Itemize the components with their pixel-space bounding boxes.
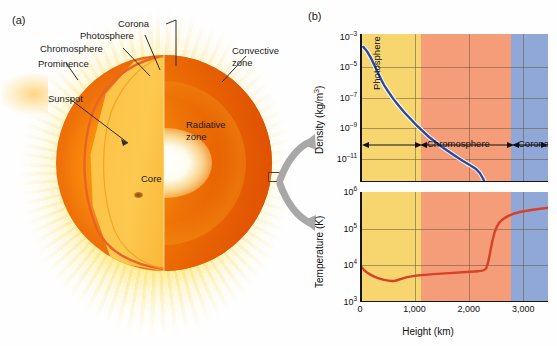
label-photosphere: Photosphere — [80, 30, 134, 41]
ytick-temp-2: 104 — [343, 260, 357, 270]
zone-label-corona: Corona — [518, 138, 548, 149]
temperature-plot-area — [360, 192, 548, 302]
density-plot: Photosphere Chromosphere Corona 10–3 10–… — [360, 34, 548, 182]
label-core: Core — [141, 173, 162, 184]
ytick-density-0: 10–3 — [340, 32, 357, 42]
ytick-density-4: 10–11 — [337, 154, 357, 164]
density-axis-title: Density (kg/m3) — [314, 86, 325, 154]
zone-annotation-arrows — [360, 34, 548, 182]
panel-b-letter: (b) — [308, 10, 321, 22]
ytick-density-2: 10–7 — [340, 93, 357, 103]
panel-a-sun-illustration: (a) Corona Photosphere — [0, 0, 300, 346]
panel-b-profiles: (b) — [300, 0, 557, 346]
detail-callout-box — [268, 172, 283, 182]
temperature-x-axis — [360, 301, 548, 303]
sun-sphere — [56, 55, 272, 271]
ytick-density-3: 10–9 — [340, 123, 357, 133]
label-prominence: Prominence — [38, 58, 89, 69]
ytick-temp-3: 103 — [343, 297, 357, 307]
prominence-feature — [2, 74, 48, 114]
label-radiative-zone-line2: zone — [186, 131, 207, 142]
ytick-temp-1: 105 — [343, 224, 357, 234]
temperature-curve — [360, 192, 548, 302]
label-sunspot: Sunspot — [48, 93, 83, 104]
sunspot-feature — [134, 192, 143, 198]
zone-label-photosphere: Photosphere — [371, 36, 382, 90]
solar-structure-figure: (a) Corona Photosphere — [0, 0, 557, 346]
label-corona: Corona — [118, 18, 149, 29]
label-convective-zone-line2: zone — [232, 57, 253, 68]
xtick-1000: 1,000 — [403, 304, 426, 314]
density-plot-area: Photosphere Chromosphere Corona — [360, 34, 548, 182]
height-axis-title: Height (km) — [402, 326, 454, 337]
temperature-axis-title: Temperature (K) — [314, 216, 325, 288]
label-radiative-zone-line1: Radiative — [186, 119, 226, 130]
label-chromosphere: Chromosphere — [40, 43, 103, 54]
ytick-density-1: 10–5 — [340, 62, 357, 72]
zone-label-chromosphere: Chromosphere — [427, 138, 490, 149]
label-convective-zone-line1: Convective — [232, 45, 279, 56]
density-y-axis — [360, 34, 362, 182]
density-x-axis — [360, 181, 548, 183]
xtick-0: 0 — [357, 304, 362, 314]
xtick-3000: 3,000 — [512, 304, 535, 314]
temperature-plot: 106 105 104 103 0 1,000 2,000 3,000 — [360, 192, 548, 302]
chromosphere-boundary-line — [56, 55, 272, 271]
temperature-y-axis — [360, 192, 362, 302]
xtick-2000: 2,000 — [458, 304, 481, 314]
ytick-temp-0: 106 — [343, 187, 357, 197]
